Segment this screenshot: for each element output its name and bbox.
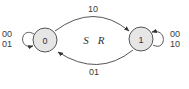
state-1-label: 1 xyxy=(138,35,143,45)
state-0: 0 xyxy=(33,28,57,52)
state-0-label: 0 xyxy=(42,36,47,46)
state-diagram: 10 01 00 01 00 10 0 1 S R xyxy=(0,0,189,89)
self-loop-1 xyxy=(152,32,163,47)
transition-1-to-0 xyxy=(58,50,133,65)
self-loop-1-label-line1: 00 xyxy=(170,29,180,39)
state-1: 1 xyxy=(129,27,153,51)
self-loop-0-label-line1: 00 xyxy=(2,29,12,39)
self-loop-1-label-line2: 10 xyxy=(170,39,180,49)
transition-1-to-0-label: 01 xyxy=(89,67,99,77)
self-loop-0 xyxy=(23,32,34,46)
input-s-label: S xyxy=(83,34,89,46)
transition-0-to-1-label: 10 xyxy=(88,4,98,14)
input-r-label: R xyxy=(97,34,105,46)
transition-0-to-1 xyxy=(55,17,129,32)
self-loop-0-label-line2: 01 xyxy=(2,39,12,49)
